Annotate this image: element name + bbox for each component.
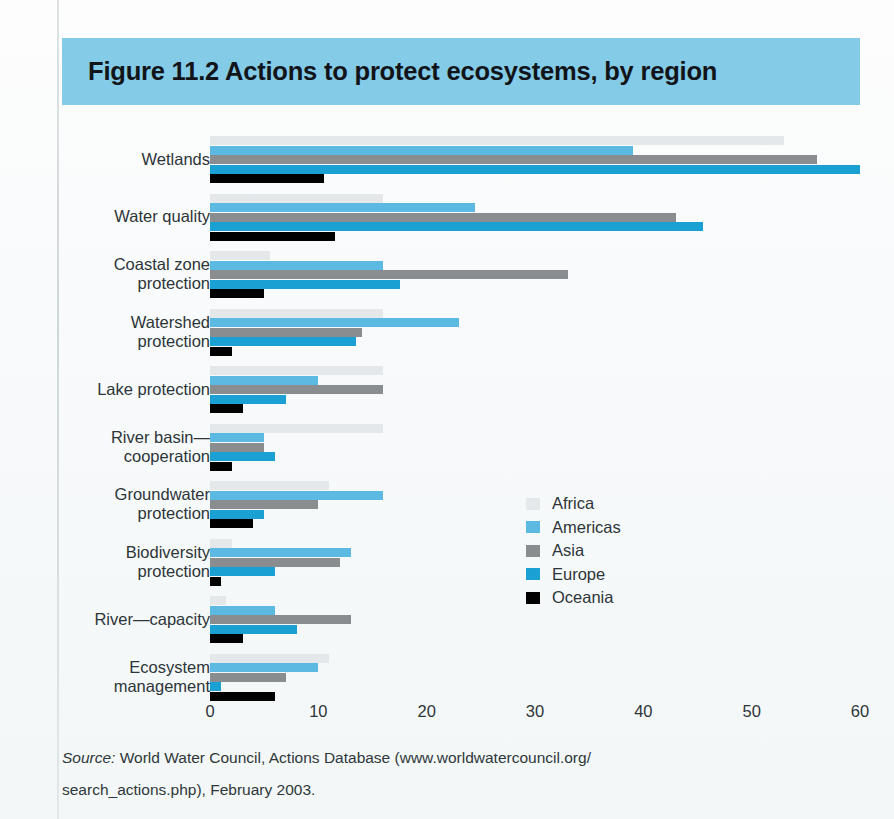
bar [210, 462, 232, 471]
bar-group [210, 136, 860, 186]
legend-swatch-icon [526, 592, 540, 604]
legend-label: Asia [552, 541, 584, 560]
y-axis-label-line: protection [62, 504, 210, 523]
y-axis-label-line: protection [62, 274, 210, 293]
bar [210, 222, 703, 231]
bar-group [210, 424, 860, 474]
bar [210, 213, 676, 222]
y-axis-label-line: Biodiversity [62, 543, 210, 562]
bar [210, 376, 318, 385]
y-axis-label-line: protection [62, 332, 210, 351]
legend-item: Africa [526, 492, 676, 516]
bar [210, 673, 286, 682]
legend-label: Americas [552, 518, 621, 537]
legend-item: Oceania [526, 586, 676, 610]
source-label: Source: [62, 749, 115, 766]
legend-swatch-icon [526, 545, 540, 557]
bar [210, 165, 860, 174]
legend-item: Europe [526, 563, 676, 587]
y-axis-label-line: protection [62, 562, 210, 581]
legend-label: Europe [552, 565, 605, 584]
bar [210, 500, 318, 509]
chart-plot-area: WetlandsWater qualityCoastal zoneprotect… [62, 118, 860, 718]
bar [210, 174, 324, 183]
y-axis-label: Water quality [62, 207, 210, 226]
bar [210, 567, 275, 576]
bar [210, 328, 362, 337]
bar [210, 519, 253, 528]
legend-label: Africa [552, 494, 594, 513]
x-axis-tick-label: 20 [417, 702, 435, 721]
figure-title: Figure 11.2 Actions to protect ecosystem… [88, 57, 717, 86]
y-axis-label-line: Water quality [62, 207, 210, 226]
y-axis-label-line: cooperation [62, 447, 210, 466]
y-axis-label-line: River basin— [62, 428, 210, 447]
bar [210, 251, 270, 260]
page-background: Figure 11.2 Actions to protect ecosystem… [0, 0, 894, 819]
source-line-2: search_actions.php), February 2003. [62, 774, 852, 806]
bar [210, 682, 221, 691]
bar [210, 606, 275, 615]
source-line-1: Source: World Water Council, Actions Dat… [62, 742, 852, 774]
x-axis: 0102030405060 [210, 694, 860, 734]
y-axis-label-line: Lake protection [62, 380, 210, 399]
y-axis-label: River basin—cooperation [62, 428, 210, 466]
x-axis-tick-label: 0 [205, 702, 214, 721]
y-axis-label-line: River—capacity [62, 610, 210, 629]
page-gutter-rule [57, 0, 59, 819]
bar [210, 481, 329, 490]
bar [210, 577, 221, 586]
bar [210, 663, 318, 672]
bar [210, 261, 383, 270]
legend-swatch-icon [526, 498, 540, 510]
x-axis-tick-label: 50 [742, 702, 760, 721]
bar [210, 203, 475, 212]
y-axis-label: Biodiversityprotection [62, 543, 210, 581]
bar-group [210, 309, 860, 359]
y-axis-label: Watershedprotection [62, 313, 210, 351]
bar [210, 558, 340, 567]
bar [210, 280, 400, 289]
bar-group [210, 194, 860, 244]
bar [210, 539, 232, 548]
legend-label: Oceania [552, 588, 613, 607]
figure-container: Figure 11.2 Actions to protect ecosystem… [62, 0, 862, 819]
x-axis-tick-label: 40 [634, 702, 652, 721]
figure-title-band: Figure 11.2 Actions to protect ecosystem… [62, 38, 860, 105]
bar-group [210, 251, 860, 301]
bar [210, 615, 351, 624]
legend-item: Americas [526, 516, 676, 540]
y-axis-label-line: Coastal zone [62, 255, 210, 274]
bar [210, 146, 633, 155]
bar [210, 289, 264, 298]
bar [210, 136, 784, 145]
bar [210, 491, 383, 500]
chart-legend: AfricaAmericasAsiaEuropeOceania [526, 492, 676, 610]
y-axis-label-line: Groundwater [62, 485, 210, 504]
bar [210, 443, 264, 452]
y-axis-label: Ecosystemmanagement [62, 658, 210, 696]
bar [210, 510, 264, 519]
bar [210, 232, 335, 241]
bar [210, 155, 817, 164]
bar [210, 385, 383, 394]
source-line-1-text: World Water Council, Actions Database (w… [115, 749, 591, 766]
y-axis-label: Groundwaterprotection [62, 485, 210, 523]
y-axis-label-line: management [62, 677, 210, 696]
x-axis-tick-label: 60 [851, 702, 869, 721]
source-note: Source: World Water Council, Actions Dat… [62, 742, 852, 806]
bar [210, 634, 243, 643]
bar [210, 395, 286, 404]
y-axis-label: Coastal zoneprotection [62, 255, 210, 293]
bar [210, 404, 243, 413]
y-axis-label-line: Wetlands [62, 150, 210, 169]
bar [210, 424, 383, 433]
y-axis-label: Lake protection [62, 380, 210, 399]
bar [210, 337, 356, 346]
x-axis-tick-label: 30 [526, 702, 544, 721]
bar [210, 625, 297, 634]
bar-group [210, 366, 860, 416]
bar [210, 596, 226, 605]
y-axis-category-labels: WetlandsWater qualityCoastal zoneprotect… [62, 118, 210, 696]
bar [210, 318, 459, 327]
